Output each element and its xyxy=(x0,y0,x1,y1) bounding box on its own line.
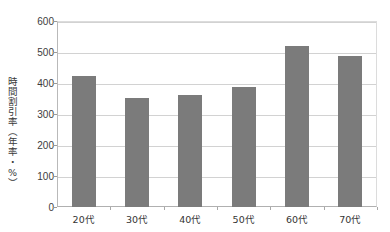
y-tick-label: 400 xyxy=(24,78,54,89)
y-tick-label: 100 xyxy=(24,171,54,182)
y-axis-tick-labels: 0100200300400500600 xyxy=(18,0,54,232)
x-tick-mark xyxy=(217,207,218,210)
y-tick-label: 0 xyxy=(24,202,54,213)
y-tick-label: 300 xyxy=(24,109,54,120)
x-tick-label: 70代 xyxy=(339,212,361,226)
y-tick-label: 200 xyxy=(24,140,54,151)
x-tick-label: 20代 xyxy=(73,212,95,226)
x-tick-mark xyxy=(377,207,378,210)
x-tick-label: 30代 xyxy=(126,212,148,226)
bar xyxy=(285,46,309,207)
x-axis: 20代30代40代50代60代70代 xyxy=(57,207,377,232)
x-tick-label: 50代 xyxy=(233,212,255,226)
x-tick-label: 40代 xyxy=(179,212,201,226)
x-tick-mark xyxy=(164,207,165,210)
bar xyxy=(125,98,149,207)
bar xyxy=(338,56,362,207)
x-tick-mark xyxy=(270,207,271,210)
bars-container xyxy=(57,21,377,207)
x-tick-mark xyxy=(324,207,325,210)
y-tick-label: 500 xyxy=(24,47,54,58)
bar xyxy=(72,76,96,207)
bar-chart: 時間割引率（年率・%） 0100200300400500600 20代30代40… xyxy=(0,0,390,232)
bar xyxy=(232,87,256,207)
y-axis-title: 時間割引率（年率・%） xyxy=(2,72,18,192)
y-tick-label: 600 xyxy=(24,16,54,27)
bar xyxy=(178,95,202,207)
x-tick-label: 60代 xyxy=(286,212,308,226)
x-tick-mark xyxy=(110,207,111,210)
